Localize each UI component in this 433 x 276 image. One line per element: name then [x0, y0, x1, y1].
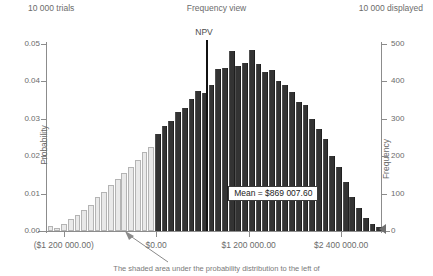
y-axis-right-tick	[382, 156, 387, 157]
chart-caption: The shaded area under the probability di…	[0, 264, 433, 273]
histogram-bar	[356, 208, 362, 231]
y-axis-left-tick-label: 0.02	[8, 151, 40, 160]
y-axis-right-tick-label: 400	[391, 76, 404, 85]
histogram-bar	[95, 197, 101, 231]
histogram-bar	[88, 205, 94, 231]
histogram-bar	[370, 224, 376, 231]
y-axis-left-tick	[41, 156, 46, 157]
histogram-bar	[68, 219, 74, 231]
y-axis-left-tick	[41, 119, 46, 120]
y-axis-left-tick	[41, 231, 46, 232]
histogram-bar	[162, 126, 168, 231]
histogram-plot-area: Probability Frequency	[46, 44, 382, 231]
y-axis-left-tick-label: 0.03	[8, 114, 40, 123]
y-axis-right-tick-label: 300	[391, 114, 404, 123]
y-axis-left-tick	[41, 81, 46, 82]
histogram-bar	[168, 121, 174, 231]
histogram-bar	[121, 173, 127, 231]
y-axis-left-tick-label: 0.00	[8, 226, 40, 235]
histogram-bar	[142, 152, 148, 231]
histogram-bar	[303, 105, 309, 231]
histogram-bar	[269, 70, 275, 231]
histogram-bar	[182, 108, 188, 231]
histogram-bar	[175, 112, 181, 231]
histogram-bar	[222, 68, 228, 231]
histogram-bar	[209, 85, 215, 231]
histogram-bar	[135, 160, 141, 231]
histogram-bar	[363, 218, 369, 231]
histogram-bar	[262, 72, 268, 231]
histogram-bar	[316, 129, 322, 231]
histogram-bar	[289, 92, 295, 231]
y-axis-right-tick-label: 200	[391, 151, 404, 160]
histogram-bar	[256, 64, 262, 231]
histogram-bar	[336, 167, 342, 231]
mean-value-callout: Mean = $869 007.60	[228, 186, 318, 201]
histogram-bar	[189, 99, 195, 231]
histogram-bar	[309, 119, 315, 231]
histogram-bar	[48, 226, 54, 231]
y-axis-left-tick-label: 0.05	[8, 39, 40, 48]
histogram-bar	[242, 63, 248, 231]
histogram-bar	[54, 228, 60, 231]
histogram-bar	[329, 156, 335, 231]
y-axis-left-tick-label: 0.01	[8, 189, 40, 198]
displayed-count-label: 10 000 displayed	[359, 3, 423, 13]
y-axis-right-tick-label: 500	[391, 39, 404, 48]
y-axis-left-title: Probability	[39, 125, 49, 165]
histogram-bar	[343, 182, 349, 231]
x-axis-tick	[341, 232, 342, 237]
shaded-area-pointer-arrow	[110, 228, 180, 264]
x-axis-tick-label: $2 400 000.00	[286, 240, 396, 250]
histogram-bar	[128, 167, 134, 231]
y-axis-left-tick	[41, 194, 46, 195]
histogram-bar	[115, 179, 121, 231]
histogram-bar	[215, 69, 221, 231]
x-axis-line	[38, 231, 390, 232]
y-axis-right-tick-label: 0	[391, 226, 395, 235]
frequency-chart-window: 10 000 trials Frequency view 10 000 disp…	[0, 0, 433, 276]
y-axis-right-tick	[382, 81, 387, 82]
histogram-bar	[61, 224, 67, 231]
histogram-bar	[249, 50, 255, 231]
histogram-bar	[148, 147, 154, 231]
histogram-bar	[296, 102, 302, 231]
npv-marker-line	[206, 40, 208, 231]
histogram-bar	[276, 81, 282, 231]
histogram-bar	[349, 197, 355, 231]
histogram-bar	[323, 139, 329, 231]
x-axis-tick	[249, 232, 250, 237]
histogram-bar	[108, 185, 114, 231]
histogram-bar	[101, 192, 107, 231]
npv-marker-label: NPV	[195, 27, 212, 37]
histogram-bar	[229, 51, 235, 231]
y-axis-right-tick	[382, 194, 387, 195]
histogram-bar	[155, 134, 161, 231]
y-axis-left-tick	[41, 44, 46, 45]
y-axis-right-tick-label: 100	[391, 189, 404, 198]
y-axis-right-title: Frequency	[381, 139, 391, 179]
histogram-bar	[75, 215, 81, 231]
frequency-zero-marker	[379, 224, 386, 234]
histogram-bar	[235, 66, 241, 231]
histogram-bar	[81, 210, 87, 231]
histogram-bar	[195, 91, 201, 231]
y-axis-right-tick	[382, 44, 387, 45]
y-axis-left-tick-label: 0.04	[8, 76, 40, 85]
x-axis-tick	[64, 232, 65, 237]
y-axis-right-tick	[382, 119, 387, 120]
histogram-bar	[282, 85, 288, 231]
